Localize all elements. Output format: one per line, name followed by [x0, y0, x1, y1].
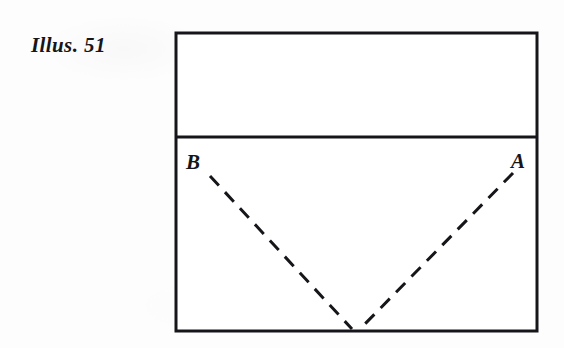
- vertex-label-b: B: [185, 150, 200, 174]
- sheet-outline-rect: [176, 33, 537, 331]
- fold-diagram: B A: [0, 0, 564, 348]
- vertex-label-a: A: [509, 149, 525, 173]
